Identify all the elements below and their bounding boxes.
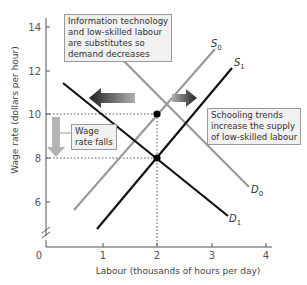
label-d0: D0	[251, 184, 263, 198]
x-axis-title: Labour (thousands of hours per day)	[96, 266, 261, 276]
origin-label: 0	[36, 250, 42, 261]
y-tick-6: 6	[35, 197, 41, 208]
equilibrium-point-initial	[153, 110, 160, 117]
demand-note-line: demand decreases	[68, 49, 168, 60]
y-axis-title: Wage rate (dollars per hour)	[10, 46, 20, 174]
x-tick-2: 2	[154, 250, 160, 261]
y-tick-10: 10	[28, 109, 41, 120]
y-tick-8: 8	[35, 153, 41, 164]
demand-note-line: and low-skilled labour	[68, 27, 168, 38]
x-tick-4: 4	[263, 250, 269, 261]
supply-note-line: Schooling trends	[211, 110, 297, 121]
x-tick-3: 3	[209, 250, 215, 261]
wage-note-line: rate falls	[75, 137, 113, 148]
y-tick-14: 14	[28, 22, 41, 33]
supply-shift-right-arrow-icon	[172, 89, 197, 107]
y-tick-12: 12	[28, 66, 41, 77]
equilibrium-point-new	[153, 154, 160, 161]
label-s1: S1	[234, 57, 245, 71]
wage-note-box: Wage rate falls	[71, 124, 117, 150]
supply-note-line: increase the supply	[211, 121, 297, 132]
supply-note-line: of low-skilled labour	[211, 132, 297, 143]
wage-note-line: Wage	[75, 126, 113, 137]
supply-note-box: Schooling trends increase the supply of …	[207, 108, 301, 145]
demand-note-box: Information technology and low-skilled l…	[64, 14, 172, 62]
demand-shift-left-arrow-icon	[89, 88, 135, 108]
label-d1: D1	[229, 213, 241, 227]
wage-fall-down-arrow-icon	[47, 117, 65, 157]
demand-note-line: Information technology	[68, 16, 168, 27]
label-s0: S0	[211, 38, 222, 52]
x-tick-1: 1	[100, 250, 106, 261]
demand-note-line: are substitutes so	[68, 38, 168, 49]
